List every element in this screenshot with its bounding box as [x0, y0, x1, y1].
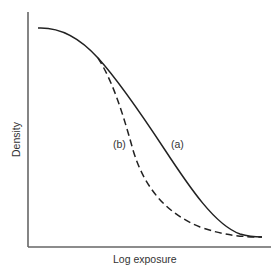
curve-a-solid [38, 28, 262, 237]
y-axis-label: Density [10, 121, 22, 157]
curve-a-label: (a) [171, 138, 184, 150]
characteristic-curve-chart: (b) (a) Log exposure Density [0, 0, 280, 271]
curve-b-label: (b) [113, 138, 126, 150]
x-axis-label: Log exposure [113, 253, 177, 265]
